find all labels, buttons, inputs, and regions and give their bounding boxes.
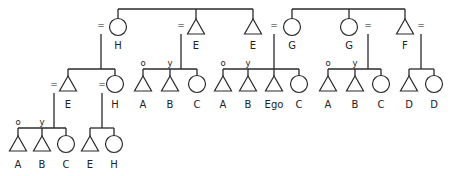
kin-label: C <box>296 99 303 110</box>
kin-label: E <box>193 40 199 51</box>
kin-label: Ego <box>265 99 284 110</box>
marriage-sign: = <box>417 20 425 30</box>
female-circle-icon <box>284 19 301 36</box>
female-circle-icon <box>373 76 390 93</box>
male-triangle-icon <box>162 76 179 91</box>
kin-label: C <box>378 99 385 110</box>
male-triangle-icon <box>240 76 257 91</box>
age-marker-younger: y <box>245 58 250 68</box>
female-circle-icon <box>110 19 127 36</box>
kin-label: E <box>87 159 93 170</box>
marriage-sign: = <box>364 20 372 30</box>
age-marker-older: o <box>15 117 20 127</box>
kin-label: D <box>430 99 438 110</box>
kin-label: A <box>15 159 22 170</box>
female-circle-icon <box>107 76 124 93</box>
kin-label: F <box>402 40 408 51</box>
kin-label: A <box>140 99 147 110</box>
kin-label: A <box>325 99 332 110</box>
kin-label: B <box>245 99 252 110</box>
male-triangle-icon <box>320 76 337 91</box>
kin-label: B <box>352 99 359 110</box>
male-triangle-icon <box>266 76 283 91</box>
marriage-sign: = <box>270 20 278 30</box>
male-triangle-icon <box>10 136 27 151</box>
age-marker-younger: y <box>39 117 44 127</box>
age-marker-older: o <box>220 58 225 68</box>
marriage-sign: = <box>98 79 106 89</box>
male-triangle-icon <box>401 76 418 91</box>
kin-label: B <box>39 159 46 170</box>
male-triangle-icon <box>82 136 99 151</box>
male-triangle-icon <box>245 19 262 34</box>
age-marker-younger: y <box>352 58 357 68</box>
kinship-diagram: H=E=EG=G=F=E=H=AoByCAoByEgoCAoByCDDAoByC… <box>0 0 450 176</box>
female-circle-icon <box>426 76 443 93</box>
kin-label: C <box>194 99 201 110</box>
female-circle-icon <box>106 136 123 153</box>
male-triangle-icon <box>60 76 77 91</box>
marriage-sign: = <box>50 79 58 89</box>
male-triangle-icon <box>215 76 232 91</box>
kin-label: C <box>63 159 70 170</box>
age-marker-older: o <box>140 58 145 68</box>
age-marker-younger: y <box>167 58 172 68</box>
kin-symbols: H=E=EG=G=F=E=H=AoByCAoByEgoCAoByCDDAoByC… <box>10 19 443 171</box>
kin-label: E <box>250 40 256 51</box>
age-marker-older: o <box>325 58 330 68</box>
kin-label: A <box>220 99 227 110</box>
male-triangle-icon <box>188 19 205 34</box>
kin-label: G <box>288 40 296 51</box>
male-triangle-icon <box>34 136 51 151</box>
kin-label: B <box>167 99 174 110</box>
female-circle-icon <box>341 19 358 36</box>
kin-label: G <box>345 40 353 51</box>
male-triangle-icon <box>135 76 152 91</box>
female-circle-icon <box>58 136 75 153</box>
female-circle-icon <box>189 76 206 93</box>
kin-label: E <box>65 99 71 110</box>
kin-label: H <box>111 99 119 110</box>
female-circle-icon <box>291 76 308 93</box>
marriage-sign: = <box>97 20 105 30</box>
male-triangle-icon <box>347 76 364 91</box>
kin-label: H <box>114 40 122 51</box>
kin-label: D <box>405 99 413 110</box>
kin-label: H <box>110 159 118 170</box>
male-triangle-icon <box>397 19 414 34</box>
marriage-sign: = <box>177 20 185 30</box>
